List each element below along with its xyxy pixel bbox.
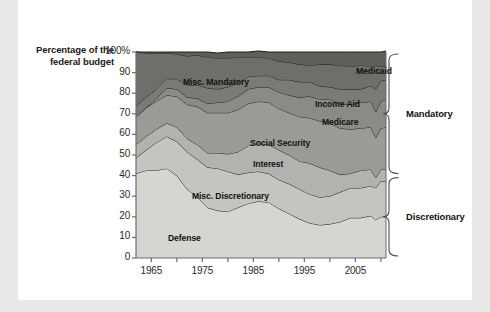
band-label-social-security: Social Security <box>250 138 310 148</box>
y-tick-label: 50 <box>64 148 130 159</box>
area-bands-group <box>136 51 386 258</box>
brace-label-mandatory: Mandatory <box>406 108 453 119</box>
x-tick-label: 1985 <box>228 265 278 276</box>
x-tick-label: 2005 <box>330 265 380 276</box>
x-tick-label: 1995 <box>279 265 329 276</box>
band-label-misc-discretionary: Misc. Discretionary <box>192 191 269 201</box>
page-background: Percentage of the federal budget 0102030… <box>0 0 490 312</box>
x-tick-label: 1965 <box>126 265 176 276</box>
y-tick-label: 90 <box>64 66 130 77</box>
stacked-area-chart: Percentage of the federal budget 0102030… <box>0 0 490 312</box>
y-tick-label: 30 <box>64 189 130 200</box>
band-label-medicare: Medicare <box>322 117 358 127</box>
y-tick-label: 60 <box>64 127 130 138</box>
y-tick-label: 100% <box>64 45 130 56</box>
band-label-misc-mandatory: Misc. Mandatory <box>183 77 249 87</box>
y-tick-label: 10 <box>64 230 130 241</box>
y-tick-label: 80 <box>64 86 130 97</box>
x-tick-label: 1975 <box>177 265 227 276</box>
band-label-medicaid: Medicaid <box>356 66 392 76</box>
band-label-interest: Interest <box>253 159 283 169</box>
y-tick-label: 70 <box>64 107 130 118</box>
band-label-defense: Defense <box>168 233 201 243</box>
brace-label-discretionary: Discretionary <box>406 211 465 222</box>
y-tick-label: 40 <box>64 169 130 180</box>
band-label-income-aid: Income Aid <box>315 99 360 109</box>
y-tick-label: 0 <box>64 251 130 262</box>
y-tick-label: 20 <box>64 210 130 221</box>
